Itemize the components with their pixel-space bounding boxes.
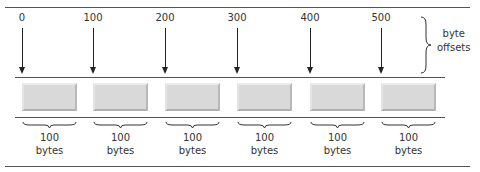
size-unit: bytes: [310, 144, 365, 157]
size-value: 100: [381, 131, 436, 144]
byte-offsets-label: byte offsets: [437, 27, 471, 55]
size-value: 100: [22, 131, 77, 144]
block-size-label: 100bytes: [22, 131, 77, 157]
stream-bottom-rule: [15, 117, 445, 118]
offset-arrow-icon: [22, 28, 23, 68]
underbrace-icon: [381, 121, 436, 129]
size-unit: bytes: [93, 144, 148, 157]
offset-label-200: 200: [145, 12, 185, 23]
underbrace-icon: [237, 121, 292, 129]
offset-label-500: 500: [361, 12, 401, 23]
block-size-label: 100bytes: [165, 131, 220, 157]
size-value: 100: [93, 131, 148, 144]
data-block: [381, 83, 436, 111]
curly-brace-icon: [420, 16, 432, 74]
offset-arrow-icon: [381, 28, 382, 68]
data-block: [93, 83, 148, 111]
offset-label-400: 400: [290, 12, 330, 23]
stream-top-rule: [15, 77, 445, 78]
size-unit: bytes: [165, 144, 220, 157]
top-rule: [5, 7, 470, 8]
byte-offsets-label-line2: offsets: [437, 41, 471, 55]
data-block: [22, 83, 77, 111]
size-value: 100: [237, 131, 292, 144]
offset-label-100: 100: [73, 12, 113, 23]
underbrace-icon: [93, 121, 148, 129]
offset-arrow-icon: [237, 28, 238, 68]
byte-offsets-label-line1: byte: [437, 27, 471, 41]
offset-label-300: 300: [217, 12, 257, 23]
size-unit: bytes: [237, 144, 292, 157]
size-unit: bytes: [381, 144, 436, 157]
block-size-label: 100bytes: [237, 131, 292, 157]
underbrace-icon: [165, 121, 220, 129]
offset-label-0: 0: [2, 12, 42, 23]
block-size-label: 100bytes: [310, 131, 365, 157]
offset-arrow-icon: [310, 28, 311, 68]
bottom-rule: [5, 166, 470, 167]
offset-arrow-icon: [93, 28, 94, 68]
offset-arrow-icon: [165, 28, 166, 68]
data-block: [237, 83, 292, 111]
underbrace-icon: [22, 121, 77, 129]
block-size-label: 100bytes: [381, 131, 436, 157]
block-size-label: 100bytes: [93, 131, 148, 157]
size-value: 100: [165, 131, 220, 144]
data-block: [165, 83, 220, 111]
size-value: 100: [310, 131, 365, 144]
size-unit: bytes: [22, 144, 77, 157]
underbrace-icon: [310, 121, 365, 129]
data-block: [310, 83, 365, 111]
